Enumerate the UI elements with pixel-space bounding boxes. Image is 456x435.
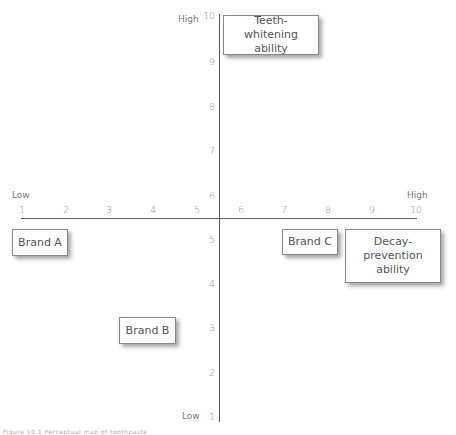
y-tick-6: 6 (195, 191, 215, 201)
x-high-label: High (407, 190, 428, 200)
y-high-label: High (178, 14, 199, 24)
y-tick-2: 2 (195, 368, 215, 378)
teeth-whitening-line2: ability (228, 42, 314, 56)
decay-prevention-line1: Decay-prevention (350, 235, 436, 263)
brand-a-label: Brand A (18, 236, 62, 250)
brand-a-box: Brand A (12, 229, 68, 256)
x-tick-7: 7 (274, 205, 294, 215)
teeth-whitening-label-box: Teeth-whitening ability (223, 15, 319, 55)
y-tick-4: 4 (195, 279, 215, 289)
x-tick-8: 8 (318, 205, 338, 215)
brand-c-box: Brand C (282, 229, 338, 255)
decay-prevention-line2: ability (350, 263, 436, 277)
y-tick-7: 7 (195, 146, 215, 156)
x-tick-10: 10 (406, 205, 426, 215)
x-tick-1: 1 (12, 205, 32, 215)
y-low-label: Low (182, 411, 200, 421)
x-tick-2: 2 (56, 205, 76, 215)
decay-prevention-label-box: Decay-prevention ability (345, 229, 441, 283)
y-tick-3: 3 (195, 323, 215, 333)
x-tick-3: 3 (99, 205, 119, 215)
horizontal-axis (21, 218, 417, 219)
x-tick-4: 4 (143, 205, 163, 215)
x-tick-5: 5 (187, 205, 207, 215)
teeth-whitening-line1: Teeth-whitening (228, 14, 314, 42)
brand-c-label: Brand C (288, 235, 332, 249)
x-low-label: Low (12, 190, 30, 200)
x-tick-6: 6 (231, 205, 251, 215)
y-tick-5: 5 (195, 235, 215, 245)
brand-b-label: Brand B (126, 324, 170, 338)
figure-caption: Figure 10.1 Perceptual map of toothpaste (3, 428, 148, 435)
y-tick-9: 9 (195, 57, 215, 67)
brand-b-box: Brand B (119, 317, 176, 344)
y-tick-8: 8 (195, 102, 215, 112)
x-tick-9: 9 (362, 205, 382, 215)
